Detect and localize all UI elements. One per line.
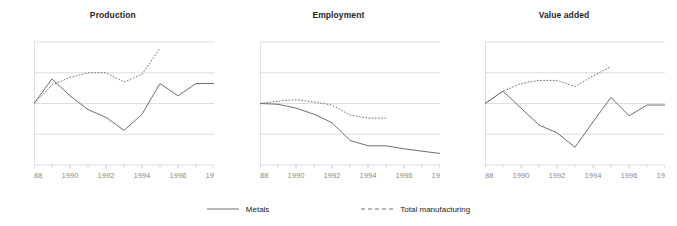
xtick-label: 1994	[134, 171, 151, 180]
xtick-label: 1998	[431, 171, 439, 180]
solid-line-key-icon	[207, 205, 239, 213]
plot-area-employment: 6080100120140198819901992199419961998	[260, 38, 440, 183]
xtick-label: 1988	[485, 171, 493, 180]
plot-area-value-added: 6080100120140198819901992199419961998	[485, 38, 665, 183]
xtick-label: 1992	[98, 171, 115, 180]
xtick-label: 1992	[549, 171, 566, 180]
series-line-total-manufacturing	[260, 100, 386, 118]
xtick-label: 1994	[359, 171, 376, 180]
chart-panel-employment: Employment 60801001201401988199019921994…	[226, 0, 452, 196]
line-chart-svg: 6080100120140198819901992199419961998	[485, 38, 665, 183]
panel-title: Production	[0, 10, 226, 20]
dashed-line-key-icon	[361, 205, 393, 213]
legend-entry-metals: Metals	[207, 205, 270, 214]
series-line-total-manufacturing	[34, 48, 160, 103]
xtick-label: 1996	[170, 171, 187, 180]
chart-panels: Production 60801001201401988199019921994…	[0, 0, 677, 196]
figure-panel-chart: Production 60801001201401988199019921994…	[0, 0, 677, 226]
plot-area-production: 6080100120140198819901992199419961998	[34, 38, 214, 183]
chart-panel-production: Production 60801001201401988199019921994…	[0, 0, 226, 196]
series-line-metals	[485, 91, 665, 147]
xtick-label: 1988	[34, 171, 42, 180]
xtick-label: 1998	[657, 171, 665, 180]
legend-entry-total-manufacturing: Total manufacturing	[361, 205, 470, 214]
legend-label-metals: Metals	[246, 205, 270, 214]
xtick-label: 1990	[513, 171, 530, 180]
xtick-label: 1988	[260, 171, 268, 180]
line-chart-svg: 6080100120140198819901992199419961998	[34, 38, 214, 183]
chart-panel-value-added: Value added 6080100120140198819901992199…	[451, 0, 677, 196]
xtick-label: 1996	[621, 171, 638, 180]
xtick-label: 1992	[323, 171, 340, 180]
panel-title: Value added	[451, 10, 677, 20]
series-line-total-manufacturing	[485, 67, 611, 104]
chart-legend: Metals Total manufacturing	[0, 198, 677, 220]
series-line-metals	[260, 104, 440, 154]
panel-title: Employment	[226, 10, 452, 20]
line-chart-svg: 6080100120140198819901992199419961998	[260, 38, 440, 183]
xtick-label: 1990	[62, 171, 79, 180]
series-line-metals	[34, 79, 214, 131]
legend-label-total-manufacturing: Total manufacturing	[400, 205, 470, 214]
xtick-label: 1996	[395, 171, 412, 180]
xtick-label: 1994	[585, 171, 602, 180]
xtick-label: 1990	[287, 171, 304, 180]
xtick-label: 1998	[206, 171, 214, 180]
